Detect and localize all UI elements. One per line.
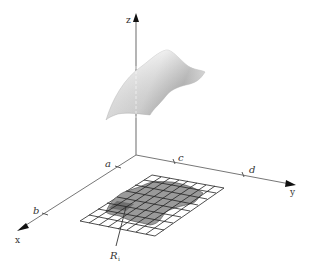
y-tick-c: c [178,152,184,163]
x-tick-a: a [105,158,111,169]
x-axis-label: x [15,235,20,245]
y-axis-arrow-icon [285,180,296,187]
z-axis-label: z [126,15,131,25]
x-tick-b: b [33,205,39,216]
z-axis-arrow-icon [133,13,139,22]
y-tick-d: d [249,164,255,175]
double-integral-diagram: z y c d x a b [0,0,310,273]
y-axis-label: y [289,187,296,197]
region-grid [80,175,224,236]
region-label: R [109,250,118,261]
region-label-subscript: i [118,255,120,262]
surface [106,50,205,120]
